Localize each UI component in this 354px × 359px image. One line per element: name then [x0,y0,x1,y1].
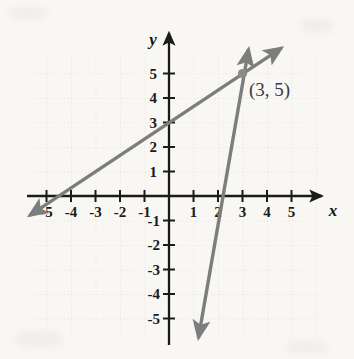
y-tick-label: -2 [148,237,161,253]
x-tick-label: -4 [65,204,78,220]
coordinate-plane: -5 -4 -3 -2 -1 1 2 3 4 5 5 4 3 2 1 -1 -2… [0,0,354,359]
y-tick-label: -5 [148,311,161,327]
x-tick-label: 5 [288,204,296,220]
y-tick-label: 5 [150,66,158,82]
y-tick-label: 3 [150,115,158,131]
y-tick-label: 1 [150,164,158,180]
intersection-point-label: (3, 5) [249,79,290,101]
y-tick-label: 2 [150,139,158,155]
x-tick-label: 4 [263,204,271,220]
y-tick-label: -4 [148,286,161,302]
y-tick-label: 4 [150,90,158,106]
y-tick-label: -1 [148,213,161,229]
intersection-point-dot [238,69,247,78]
figure-canvas: -5 -4 -3 -2 -1 1 2 3 4 5 5 4 3 2 1 -1 -2… [0,0,354,359]
x-tick-label: 3 [239,204,247,220]
y-axis-label: y [147,30,157,49]
x-tick-label: 1 [190,204,198,220]
y-tick-label: -3 [148,262,161,278]
x-tick-label: -2 [114,204,127,220]
x-tick-label: -3 [89,204,102,220]
x-axis-label: x [328,201,338,220]
